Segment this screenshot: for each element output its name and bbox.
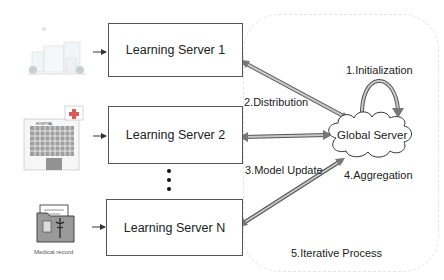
hospital-sign: HOSPITAL <box>36 122 53 126</box>
hospital-building-icon <box>24 106 83 170</box>
learning-server-1[interactable]: Learning Server 1 <box>108 23 243 77</box>
medical-record-folder-icon <box>37 205 74 242</box>
learning-server-1-label: Learning Server 1 <box>126 43 225 57</box>
step-distribution: 2.Distribution <box>244 96 308 108</box>
medical-record-caption: Medical record <box>34 249 73 255</box>
step-aggregation: 4.Aggregation <box>344 169 413 181</box>
step-initialization: 1.Initialization <box>346 64 413 76</box>
distribution-arrow-server1 <box>240 60 350 120</box>
learning-server-n-label: Learning Server N <box>124 221 225 235</box>
learning-server-2-label: Learning Server 2 <box>126 128 225 142</box>
learning-server-2[interactable]: Learning Server 2 <box>108 106 243 164</box>
ellipsis-dots <box>166 169 172 195</box>
distribution-arrow-server2 <box>239 130 332 142</box>
step-model-update: 3.Model Update <box>245 164 323 176</box>
global-server-label: Global Server <box>337 129 407 141</box>
step-iterative-process: 5.Iterative Process <box>291 247 382 259</box>
clinic-building-icon <box>28 27 86 74</box>
learning-server-n[interactable]: Learning Server N <box>106 199 243 256</box>
